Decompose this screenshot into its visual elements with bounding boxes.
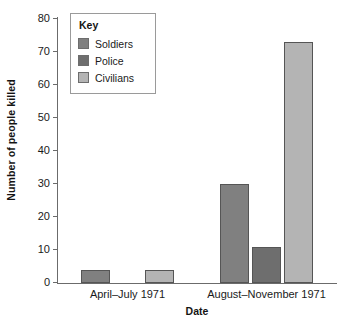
y-axis-tick-label: 20 <box>38 209 50 224</box>
y-axis-tick-mark <box>53 117 58 118</box>
bar <box>220 184 249 283</box>
bar <box>81 270 110 283</box>
x-axis-tick-label: August–November 1971 <box>197 288 336 300</box>
legend-entry: Soldiers <box>78 35 148 52</box>
y-axis-tick-label: 30 <box>38 176 50 191</box>
legend-entry: Police <box>78 52 148 69</box>
legend-entry: Civilians <box>78 69 148 86</box>
legend-swatch <box>78 55 89 66</box>
legend-entries: SoldiersPoliceCivilians <box>78 35 148 86</box>
y-axis-tick-label: 0 <box>44 275 50 290</box>
y-axis-tick-mark <box>53 216 58 217</box>
y-axis-tick-mark <box>53 150 58 151</box>
x-axis-title: Date <box>58 305 336 317</box>
y-axis-title: Number of people killed <box>0 0 22 280</box>
y-axis-tick-label: 50 <box>38 110 50 125</box>
y-axis-tick-label: 40 <box>38 143 50 158</box>
y-axis-tick-mark <box>53 84 58 85</box>
legend-label: Soldiers <box>95 38 133 50</box>
legend-swatch <box>78 72 89 83</box>
y-axis-tick-label: 80 <box>38 11 50 26</box>
x-axis-line <box>57 283 337 284</box>
y-axis-tick-label: 70 <box>38 44 50 59</box>
x-axis-tick-label: April–July 1971 <box>58 288 197 300</box>
y-axis-tick-mark <box>53 282 58 283</box>
legend: Key SoldiersPoliceCivilians <box>70 13 156 94</box>
y-axis-tick-mark <box>53 249 58 250</box>
bar <box>284 42 313 283</box>
legend-title: Key <box>79 19 148 31</box>
legend-label: Police <box>95 55 124 67</box>
legend-swatch <box>78 38 89 49</box>
bar-chart: Number of people killed 0102030405060708… <box>0 0 344 331</box>
bar <box>145 270 174 283</box>
y-axis-tick-label: 60 <box>38 77 50 92</box>
y-axis-title-text: Number of people killed <box>5 79 17 200</box>
y-axis-tick-mark <box>53 18 58 19</box>
y-axis-tick-mark <box>53 51 58 52</box>
y-axis-tick-label: 10 <box>38 242 50 257</box>
legend-label: Civilians <box>95 72 134 84</box>
y-axis-tick-mark <box>53 183 58 184</box>
bar <box>252 247 281 283</box>
